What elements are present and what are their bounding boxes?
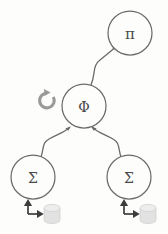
io-arrowhead-right-left <box>37 210 44 218</box>
node-phi-label: Φ <box>78 99 89 115</box>
database-right-top <box>140 204 156 211</box>
diagram-canvas: π Φ Σ Σ <box>0 0 168 234</box>
edge-phi-to-pi <box>91 45 118 85</box>
node-phi[interactable]: Φ <box>62 84 106 128</box>
io-arrowhead-up-left <box>24 199 32 206</box>
io-arrowhead-up-right <box>120 199 128 206</box>
database-left-top <box>44 204 60 211</box>
database-right <box>140 204 156 223</box>
refresh-loop-arrowhead <box>44 89 51 96</box>
node-sigma-right-label: Σ <box>124 170 134 186</box>
node-graph: π Φ Σ Σ <box>0 0 168 234</box>
io-arrowhead-right-right <box>133 210 140 218</box>
node-pi[interactable]: π <box>108 11 152 55</box>
refresh-loop-icon <box>40 89 55 108</box>
edge-sigma-left-to-phi <box>41 126 71 157</box>
node-sigma-left-label: Σ <box>28 170 38 186</box>
io-arrows-left <box>24 199 44 218</box>
node-sigma-left[interactable]: Σ <box>11 155 55 199</box>
node-sigma-right[interactable]: Σ <box>107 155 151 199</box>
edge-sigma-right-to-phi <box>91 126 121 157</box>
database-left <box>44 204 60 223</box>
io-arrows-right <box>120 199 140 218</box>
node-pi-label: π <box>125 25 135 43</box>
